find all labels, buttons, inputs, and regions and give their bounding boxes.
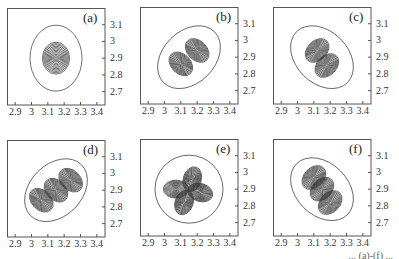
panel-c: (c)3.132.92.82.72.933.13.23.33.4 (273, 7, 399, 135)
x-tick-label: 3 (295, 237, 300, 248)
y-tick-label: 2.9 (110, 184, 123, 195)
y-tick-label: 3 (110, 35, 115, 46)
x-tick-label: 3.4 (224, 105, 237, 116)
y-tick-label: 3 (110, 167, 115, 178)
y-tick-label: 2.7 (243, 85, 256, 96)
x-tick-label: 3.3 (340, 105, 353, 116)
y-tick-label: 2.8 (376, 68, 389, 79)
x-tick-label: 2.9 (9, 238, 22, 249)
x-tick-label: 3.4 (357, 105, 370, 116)
x-tick-label: 3.2 (324, 105, 337, 116)
x-tick-label: 3 (162, 105, 167, 116)
x-tick-label: 3.3 (207, 237, 220, 248)
panel-b: (b)3.132.92.82.72.933.13.23.33.4 (140, 7, 273, 135)
y-tick-label: 3 (243, 34, 248, 45)
x-tick-label: 3.1 (175, 105, 188, 116)
x-tick-label: 3 (29, 106, 34, 117)
x-tick-label: 2.9 (275, 105, 288, 116)
y-tick-label: 3 (376, 166, 381, 177)
x-tick-label: 3 (295, 105, 300, 116)
x-tick-label: 3.1 (308, 237, 321, 248)
y-tick-label: 3 (376, 34, 381, 45)
x-tick-label: 3.3 (74, 238, 87, 249)
panel-a: (a)3.132.92.82.72.933.13.23.33.4 (7, 8, 140, 136)
x-tick-label: 3.4 (357, 237, 370, 248)
y-tick-label: 2.8 (110, 69, 123, 80)
y-tick-label: 3.1 (376, 150, 389, 161)
panel-label: (b) (216, 9, 231, 25)
panel-label: (a) (83, 10, 97, 26)
x-tick-label: 3.3 (340, 237, 353, 248)
x-tick-label: 3.1 (42, 238, 55, 249)
y-tick-label: 3.1 (110, 151, 123, 162)
panel-label: (c) (349, 9, 363, 25)
x-tick-label: 3.3 (74, 106, 87, 117)
x-tick-label: 3.1 (175, 237, 188, 248)
y-tick-label: 2.8 (243, 200, 256, 211)
panel-label: (d) (83, 142, 98, 158)
y-tick-label: 2.7 (110, 86, 123, 97)
y-tick-label: 2.9 (243, 51, 256, 62)
y-tick-label: 2.7 (376, 217, 389, 228)
x-tick-label: 2.9 (275, 237, 288, 248)
x-tick-label: 3.1 (42, 106, 55, 117)
panel-label: (e) (216, 141, 230, 157)
x-tick-label: 3.4 (91, 106, 104, 117)
y-tick-label: 2.7 (243, 217, 256, 228)
x-tick-label: 3 (162, 237, 167, 248)
x-tick-label: 2.9 (9, 106, 22, 117)
x-tick-label: 3.4 (91, 238, 104, 249)
y-tick-label: 3.1 (243, 18, 256, 29)
x-tick-label: 3.2 (191, 105, 204, 116)
y-tick-label: 2.9 (376, 51, 389, 62)
x-tick-label: 3.2 (58, 238, 71, 249)
y-tick-label: 3.1 (110, 19, 123, 30)
y-tick-label: 2.9 (110, 52, 123, 63)
panel-f: (f)3.132.92.82.72.933.13.23.33.4 (273, 139, 399, 259)
x-tick-label: 3.3 (207, 105, 220, 116)
y-tick-label: 3 (243, 166, 248, 177)
x-tick-label: 3 (29, 238, 34, 249)
panel-d: (d)3.132.92.82.72.933.13.23.33.4 (7, 140, 140, 259)
x-tick-label: 3.2 (324, 237, 337, 248)
y-tick-label: 2.8 (376, 200, 389, 211)
y-tick-label: 2.9 (376, 183, 389, 194)
x-tick-label: 2.9 (142, 237, 155, 248)
x-tick-label: 3.2 (58, 106, 71, 117)
x-tick-label: 3.1 (308, 105, 321, 116)
y-tick-label: 3.1 (376, 18, 389, 29)
y-tick-label: 2.8 (243, 68, 256, 79)
y-tick-label: 2.7 (376, 85, 389, 96)
x-tick-label: 2.9 (142, 105, 155, 116)
y-tick-label: 2.8 (110, 201, 123, 212)
y-tick-label: 2.7 (110, 218, 123, 229)
y-tick-label: 3.1 (243, 150, 256, 161)
panel-label: (f) (349, 141, 362, 157)
x-tick-label: 3.4 (224, 237, 237, 248)
x-tick-label: 3.2 (191, 237, 204, 248)
y-tick-label: 2.9 (243, 183, 256, 194)
panel-e: (e)3.132.92.82.72.933.13.23.33.4 (140, 139, 273, 259)
figure-caption: ... (a)-(f) ... (0, 250, 399, 259)
